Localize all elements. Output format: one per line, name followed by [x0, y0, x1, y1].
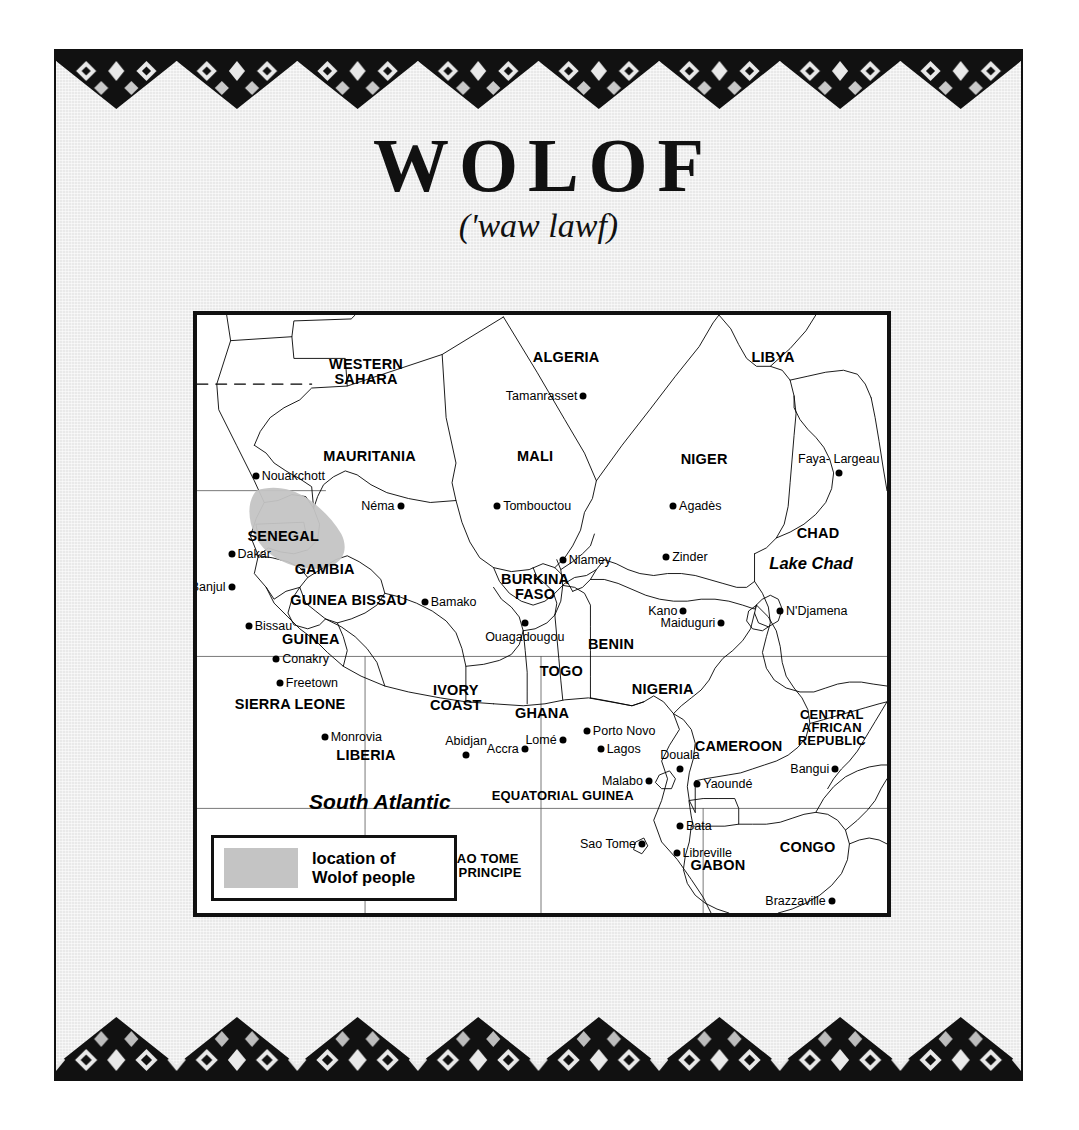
country-label-togo: TOGO [540, 663, 583, 678]
country-label-sierra-leone: SIERRA LEONE [235, 696, 346, 711]
city-label-ouagadougou: Ouagadougou [485, 630, 564, 643]
page-title: WOLOF [56, 127, 1021, 203]
city-label-faya-largeau: Faya- Largeau [798, 453, 879, 466]
city-label-zinder: Zinder [672, 551, 707, 564]
city-label-lom: Lomé [525, 733, 556, 746]
country-label-chad: CHAD [797, 526, 840, 541]
top-border-pattern [56, 51, 1021, 113]
city-dot-tamanrasset [580, 392, 587, 399]
city-dot-lom [559, 736, 566, 743]
city-dot-malabo [645, 778, 652, 785]
country-label-western-sahara: WESTERN SAHARA [329, 357, 403, 387]
country-label-burkina-faso: BURKINA FASO [501, 572, 569, 602]
legend-line-2: Wolof people [312, 868, 415, 887]
city-label-nouakchott: Nouakchott [262, 470, 325, 483]
city-label-banjul: Banjul [193, 581, 226, 594]
city-label-conakry: Conakry [282, 653, 329, 666]
country-label-mali: MALI [517, 448, 553, 463]
city-dot-maiduguri [718, 619, 725, 626]
city-dot-kano [680, 608, 687, 615]
country-label-gambia: GAMBIA [295, 562, 355, 577]
city-dot-bamako [421, 599, 428, 606]
page-canvas: WOLOF ('waw lawf) [54, 49, 1023, 1081]
pronunciation: ('waw lawf) [56, 207, 1021, 245]
country-label-congo: CONGO [780, 840, 836, 855]
city-label-monrovia: Monrovia [331, 730, 382, 743]
city-dot-zinder [663, 554, 670, 561]
country-label-liberia: LIBERIA [336, 747, 395, 762]
city-dot-niamey [559, 557, 566, 564]
country-label-cameroon: CAMEROON [695, 738, 783, 753]
city-dot-nouakchott [252, 473, 259, 480]
city-dot-yaound [694, 781, 701, 788]
city-dot-n-djamena [777, 608, 784, 615]
country-label-central-african-republic: CENTRAL AFRICAN REPUBLIC [798, 708, 866, 748]
city-dot-bissau [245, 622, 252, 629]
bottom-border-pattern [56, 1001, 1021, 1079]
country-label-guinea-bissau: GUINEA BISSAU [290, 593, 407, 608]
city-dot-bata [677, 823, 684, 830]
city-dot-ouagadougou [521, 619, 528, 626]
city-dot-faya-largeau [835, 470, 842, 477]
city-label-lagos: Lagos [607, 742, 641, 755]
city-label-n-djamena: N'Djamena [786, 605, 847, 618]
city-label-malabo: Malabo [602, 775, 643, 788]
legend-label: location of Wolof people [312, 849, 415, 888]
city-dot-douala [677, 766, 684, 773]
city-dot-conakry [273, 655, 280, 662]
city-label-maiduguri: Maiduguri [661, 617, 716, 630]
city-dot-n-ma [397, 503, 404, 510]
city-dot-sao-tome [639, 841, 646, 848]
city-label-accra: Accra [487, 742, 519, 755]
city-label-freetown: Freetown [286, 677, 338, 690]
country-label-ivory-coast: IVORY COAST [430, 683, 482, 713]
city-label-tombouctou: Tombouctou [503, 500, 571, 513]
title-block: WOLOF ('waw lawf) [56, 127, 1021, 245]
city-dot-agad-s [670, 503, 677, 510]
city-label-brazzaville: Brazzaville [765, 895, 825, 908]
map-legend: location of Wolof people [211, 835, 457, 901]
water-label-lake-chad: Lake Chad [769, 554, 852, 573]
country-label-libya: LIBYA [752, 349, 795, 364]
city-label-dakar: Dakar [238, 548, 271, 561]
country-label-niger: NIGER [681, 451, 728, 466]
city-label-tamanrasset: Tamanrasset [506, 389, 578, 402]
country-label-ghana: GHANA [515, 705, 569, 720]
city-dot-bangui [832, 766, 839, 773]
city-dot-porto-novo [583, 727, 590, 734]
city-label-bissau: Bissau [255, 620, 293, 633]
city-label-n-ma: Néma [361, 500, 394, 513]
city-label-bangui: Bangui [790, 763, 829, 776]
city-dot-tombouctou [494, 503, 501, 510]
country-label-senegal: SENEGAL [248, 529, 320, 544]
city-label-sao-tome: Sao Tome [580, 838, 636, 851]
legend-swatch [224, 848, 298, 888]
country-label-equatorial-guinea: EQUATORIAL GUINEA [492, 790, 634, 803]
country-label-mauritania: MAURITANIA [323, 448, 416, 463]
city-dot-lagos [597, 745, 604, 752]
country-label-algeria: ALGERIA [533, 349, 600, 364]
country-label-nigeria: NIGERIA [632, 681, 694, 696]
city-dot-brazzaville [828, 898, 835, 905]
city-label-abidjan: Abidjan [445, 735, 487, 748]
city-label-bamako: Bamako [431, 596, 477, 609]
water-label-south-atlantic: South Atlantic [309, 790, 451, 814]
city-label-yaound: Yaoundé [703, 778, 752, 791]
map-frame: WESTERN SAHARAALGERIALIBYAMAURITANIAMALI… [193, 311, 891, 917]
city-label-bata: Bata [686, 820, 712, 833]
city-dot-abidjan [463, 751, 470, 758]
city-label-porto-novo: Porto Novo [593, 724, 656, 737]
city-dot-freetown [276, 679, 283, 686]
city-label-niamey: Niamey [569, 554, 611, 567]
city-dot-banjul [228, 584, 235, 591]
city-dot-dakar [228, 551, 235, 558]
legend-line-1: location of [312, 849, 415, 868]
country-label-benin: BENIN [588, 636, 634, 651]
country-label-guinea: GUINEA [282, 632, 340, 647]
city-label-libreville: Libreville [683, 847, 732, 860]
city-dot-monrovia [321, 733, 328, 740]
city-label-douala: Douala [660, 749, 700, 762]
city-dot-libreville [673, 850, 680, 857]
city-label-agad-s: Agadès [679, 500, 721, 513]
map-geometry [197, 315, 887, 913]
